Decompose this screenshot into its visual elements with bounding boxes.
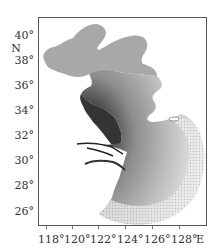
jeju-island [169,117,179,121]
hangzhou-bay-channel [85,161,125,170]
lon-tick-124 [125,226,126,229]
lat-label-26: 26° [4,206,34,217]
lat-label-34: 34° [4,105,34,116]
map-svg [39,18,207,226]
map-plot-area [38,17,207,226]
lon-label-122: 122° [90,234,117,245]
lon-tick-118 [46,226,47,229]
lon-label-126: 126° [144,234,171,245]
lon-label-120: 120° [64,234,91,245]
lat-label-38: 38° [4,55,34,66]
lat-label-30: 30° [4,155,34,166]
lon-tick-122 [98,226,99,229]
lon-tick-128 [179,226,180,229]
lat-label-32: 32° [4,130,34,141]
lat-label-28: 28° [4,180,34,191]
lon-label-118: 118° [38,234,65,245]
lon-tick-120 [72,226,73,229]
lat-label-40: 40° [4,30,34,41]
lon-label-128: 128° [171,234,198,245]
lon-tick-126 [152,226,153,229]
lat-label-36: 36° [4,80,34,91]
lon-label-124: 124° [117,234,144,245]
bohai-sea-region [43,24,157,77]
lon-unit-label: E [196,234,204,245]
lat-unit-label: N [0,43,32,54]
